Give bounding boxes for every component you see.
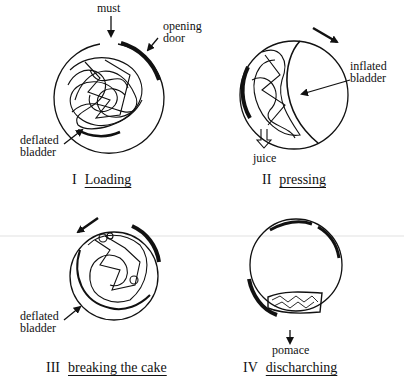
- label-opening-door: opening door: [163, 20, 202, 44]
- deflated-bladder: [78, 130, 120, 136]
- bladder-arrow: [302, 80, 350, 94]
- caption-discharching: IVdischarching: [243, 360, 337, 376]
- caption-numeral: IV: [243, 360, 258, 375]
- caption-loading: ILoading: [72, 172, 131, 188]
- label-deflated-bladder: deflated bladder: [20, 134, 59, 158]
- must-tangle: [68, 58, 142, 129]
- press-cycle-diagram: [0, 0, 404, 392]
- bladder-arrow: [64, 130, 82, 144]
- broken-cake-tangle: [88, 233, 147, 302]
- panel-discharging-drum: [249, 219, 342, 343]
- caption-text: pressing: [279, 172, 326, 187]
- caption-numeral: II: [262, 172, 271, 187]
- caption-breaking-the-cake: IIIbreaking the cake: [46, 360, 167, 376]
- juice-arrow: [257, 129, 271, 148]
- drum-outline: [70, 232, 158, 320]
- caption-numeral: I: [72, 172, 77, 187]
- cake-tangle: [252, 50, 300, 138]
- rotation-arrow: [313, 28, 337, 42]
- label-deflated-bladder-2: deflated bladder: [20, 310, 59, 334]
- bladder-arrow: [64, 307, 80, 320]
- panel-loading-drum: [54, 16, 164, 153]
- opening-door: [121, 43, 159, 80]
- caption-text: breaking the cake: [68, 360, 167, 375]
- door: [243, 67, 250, 118]
- inflated-bladder-edge: [287, 41, 318, 143]
- panel-breaking-drum: [64, 218, 159, 320]
- door-arrow: [148, 38, 158, 50]
- caption-text: Loading: [85, 172, 132, 187]
- label-must: must: [97, 2, 120, 14]
- caption-pressing: IIpressing: [262, 172, 326, 188]
- panel-pressing-drum: [240, 28, 350, 149]
- label-inflated-bladder: inflated bladder: [350, 60, 387, 84]
- caption-numeral: III: [46, 360, 60, 375]
- caption-text: discharching: [266, 360, 338, 375]
- drum-outline: [250, 219, 342, 311]
- rotation-arrow: [78, 218, 98, 232]
- drum-outline: [240, 41, 348, 149]
- deflated-bladder: [77, 250, 150, 309]
- label-pomace: pomace: [272, 344, 309, 356]
- pomace-texture: [272, 296, 318, 308]
- label-juice: juice: [253, 152, 276, 164]
